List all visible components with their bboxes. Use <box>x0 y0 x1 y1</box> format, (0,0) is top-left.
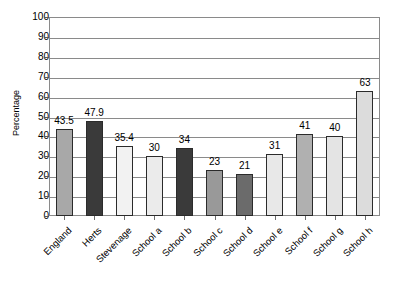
x-tick-mark <box>184 216 185 220</box>
x-tick-mark <box>365 216 366 220</box>
bar-chart: Percentage 0102030405060708090100 43.547… <box>0 0 398 283</box>
x-tick-mark <box>335 216 336 220</box>
x-tick-mark <box>154 216 155 220</box>
x-tick-mark <box>94 216 95 220</box>
x-tick-label: England <box>0 225 74 283</box>
x-tick-mark <box>305 216 306 220</box>
x-tick-mark <box>64 216 65 220</box>
x-tick-mark <box>124 216 125 220</box>
x-tick-mark <box>275 216 276 220</box>
x-axis-labels: EnglandHertsStevenageSchool aSchool bSch… <box>0 0 398 283</box>
x-tick-mark <box>245 216 246 220</box>
x-tick-mark <box>215 216 216 220</box>
